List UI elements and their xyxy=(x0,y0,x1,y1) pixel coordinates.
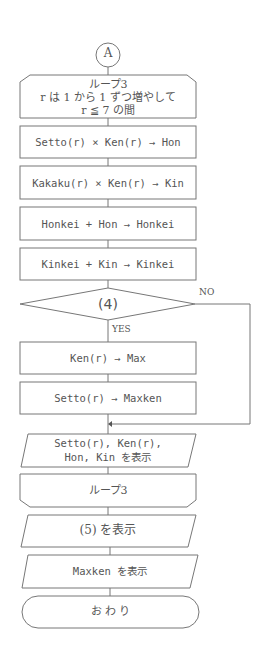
process-step-3: Honkei + Hon → Honkei xyxy=(20,218,196,231)
loop-start-condition-1: r は 1 から 1 ずつ増やして xyxy=(20,91,196,104)
terminal-label: お わ り xyxy=(22,605,199,618)
display-3-label: Maxken を表示 xyxy=(22,565,198,578)
yes-step-2: Setto(r) → Maxken xyxy=(20,392,196,405)
loop-start-condition-2: r ≦ 7 の間 xyxy=(20,104,196,117)
display-1-line-2: Hon, Kin を表示 xyxy=(20,451,196,464)
connector-label: A xyxy=(96,47,120,60)
process-step-2: Kakaku(r) × Ken(r) → Kin xyxy=(20,177,196,190)
loop-start-title: ループ3 xyxy=(20,78,196,91)
decision-no-label: NO xyxy=(199,286,214,299)
decision-label: (4) xyxy=(20,296,196,312)
yes-step-1: Ken(r) → Max xyxy=(20,352,196,365)
decision-yes-label: YES xyxy=(112,323,131,336)
display-1-line-1: Setto(r), Ken(r), xyxy=(20,437,196,450)
loop-end-label: ループ3 xyxy=(20,484,196,497)
process-step-4: Kinkei + Kin → Kinkei xyxy=(20,258,196,271)
process-step-1: Setto(r) × Ken(r) → Hon xyxy=(20,136,196,149)
display-2-label: (5) を表示 xyxy=(20,523,196,538)
